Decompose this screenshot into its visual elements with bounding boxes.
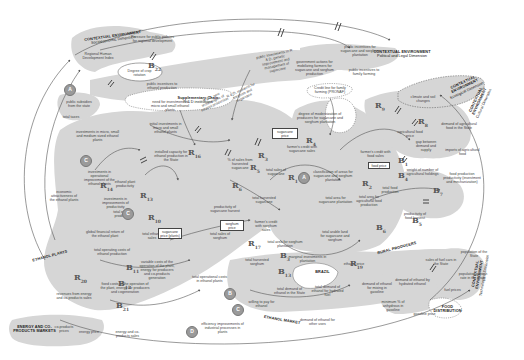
loop-r9: R9 xyxy=(375,100,385,112)
node-need-investment-plants: need for investment in micro and small e… xyxy=(150,100,190,112)
node-total-harvested-sorghum: total harvested sorghum xyxy=(238,258,276,266)
node-global-financial-return: global financial return of the ethanol p… xyxy=(85,230,125,238)
node-public-incentives-plantation: public incentives for sugarcane and sorg… xyxy=(340,45,380,57)
loop-r5: R5 xyxy=(250,162,260,174)
delay-mark xyxy=(255,138,261,146)
node-variable-costs: variable costs of the operation of the p… xyxy=(138,260,176,280)
node-imports-food: imports of agricultural food xyxy=(445,148,480,156)
node-demand-hydrated-ethanol: demand of ethanol by hydrated ethanol xyxy=(395,278,430,286)
node-agricultural-food-price: agricultural food price xyxy=(395,130,425,138)
loop-b21: B21 xyxy=(116,300,129,312)
node-public-incentives-family: public incentives to family farming xyxy=(345,68,383,76)
node-regional-hdi: Regional Human Development Index xyxy=(78,52,118,60)
loop-r6: R6 xyxy=(232,180,242,192)
node-farmer-credit-sugarcane: farmer's credit with sugarcane sales xyxy=(282,145,322,153)
node-coproducts-prices: co-products prices xyxy=(50,325,78,333)
loop-b13: B13 xyxy=(278,266,291,278)
node-total-operating-costs: total operating costs of ethanol product… xyxy=(92,248,132,256)
node-total-sales-sorghum: total sales of sorghum xyxy=(205,232,235,240)
node-ethanol-plant-productivity: ethanol plant productivity xyxy=(110,180,140,188)
context-political: CONTEXTUAL ENVIRONMENTPolitical and Lega… xyxy=(372,50,432,59)
delay-mark xyxy=(225,149,231,156)
node-population: population of the State xyxy=(460,250,488,258)
arrow-r10 xyxy=(145,166,178,180)
node-demand-other-uses: demand of ethanol for other uses xyxy=(300,318,335,326)
loop-b6: B6 xyxy=(376,222,386,234)
delay-mark xyxy=(335,22,341,31)
circle-marker-a: A xyxy=(298,172,310,184)
loop-r1: R1 xyxy=(288,172,298,184)
node-installed-capacity: installed capacity for ethanol productio… xyxy=(152,150,190,162)
node-energy-coproducts-sales: energy and co-products sales xyxy=(110,330,145,338)
arrow-r14 xyxy=(95,148,140,170)
loop-r16: R16 xyxy=(188,147,201,159)
loop-r14: R14 xyxy=(100,180,113,192)
loop-r19: R19 xyxy=(350,258,363,270)
node-marginal-investments: marginal investments in plantation xyxy=(285,255,330,263)
arrow-left-inner-arc xyxy=(45,70,80,240)
node-efficiency-improvements: efficiency improvements of industrial pr… xyxy=(200,322,245,334)
delay-mark xyxy=(423,200,429,203)
loop-b3: B3 xyxy=(280,250,290,262)
delay-mark xyxy=(395,106,401,114)
node-sorghum-price: sorghum price xyxy=(220,220,244,231)
loop-r10: R10 xyxy=(148,212,161,224)
node-demand-ag-food: demand of agricultural food in the State xyxy=(440,122,478,130)
node-productivity-sugarcane: productivity of sugarcane harvest xyxy=(210,205,240,213)
node-public-incentives-ethanol: public incentives to ethanol production xyxy=(142,82,182,90)
loop-b1: B1 xyxy=(398,155,408,167)
node-food-price: food price xyxy=(368,162,390,169)
circle-marker-c: C xyxy=(80,155,92,167)
loop-r20: R20 xyxy=(74,272,87,284)
node-minimum-anhydrous: minimum % of anhydrous in gasoline xyxy=(378,300,408,312)
loop-r8: R8 xyxy=(418,116,428,128)
node-initial-investments: initial investments in micro and small e… xyxy=(148,122,183,134)
node-total-food-production: total food production xyxy=(376,186,404,194)
loop-r13: R13 xyxy=(140,190,153,202)
node-climate-soil: climate and soil changes xyxy=(408,95,438,103)
zone-brazil: BRAZIL xyxy=(310,270,335,274)
loop-r17: R17 xyxy=(248,238,261,250)
node-population-growth: population growth rate in the State xyxy=(458,272,488,280)
node-total-sales-sugarcane: total sales of sugarcane xyxy=(262,168,290,176)
loop-r3: R3 xyxy=(258,150,268,162)
loop-b11: B11 xyxy=(126,262,139,274)
node-demand-hydrated: total demand of ethanol for hydrated fue… xyxy=(310,285,345,297)
node-pressure-public-policies: Pressure for public policies for regiona… xyxy=(130,35,175,43)
loop-b22: B22 xyxy=(148,60,161,72)
node-gov-actions-farmers: government actions for mobilizing farmer… xyxy=(292,60,337,76)
node-public-subsidies: public subsidies from the state xyxy=(64,100,94,108)
node-investments-micro-small: investments in micro, small and medium s… xyxy=(75,130,120,142)
delay-mark xyxy=(278,28,284,37)
node-willing-pay: willing to pay for ethanol xyxy=(244,300,279,308)
circle-marker-d: D xyxy=(186,326,198,338)
loop-b5: B5 xyxy=(412,215,422,227)
node-fuel-prices: fuel prices xyxy=(440,288,465,292)
node-gap-demand-supply: gap between demand and supply xyxy=(412,140,440,152)
node-food-productivity-investment: food production productivity (investment… xyxy=(442,172,482,184)
node-total-taxes: total taxes xyxy=(60,115,82,119)
node-revenues-energy: revenues from energy and co-products sal… xyxy=(55,292,93,300)
node-degree-modernization: degree of modernization of producers for… xyxy=(295,112,345,124)
delay-mark xyxy=(150,52,156,60)
node-ag-holdings: weight of number of agricultural holding… xyxy=(405,168,440,176)
node-sugarcane-price-plants: sugarcane price (plants) xyxy=(158,228,182,239)
circle-marker-a: A xyxy=(64,84,76,96)
loop-r4: R4 xyxy=(306,135,316,147)
loop-r2: R2 xyxy=(362,178,372,190)
node-total-arable-land: total arable land for sugarcane and sorg… xyxy=(320,230,350,242)
node-total-harvested-sugarcane: total harvested sugarcane xyxy=(248,196,280,204)
node-total-operational-costs: total operational costs in ethanol plant… xyxy=(192,275,227,283)
circle-marker-c: C xyxy=(122,208,134,220)
circle-marker-c: C xyxy=(232,304,244,316)
node-sales-fuel-cars: sales of fuel cars in the State xyxy=(425,258,457,266)
delay-mark xyxy=(140,157,147,163)
delay-mark xyxy=(195,126,201,133)
node-gasoline-price: gasoline price xyxy=(412,312,437,316)
node-farmer-credit-food: farmer's credit with food sales xyxy=(358,150,393,158)
loop-b7: B7 xyxy=(433,185,443,197)
delay-mark xyxy=(108,80,114,87)
node-demand-mixing: demand of ethanol for mixing in gasoline xyxy=(362,282,392,294)
node-total-area-sugarcane: total area for sugarcane plantation xyxy=(318,196,353,204)
node-energy-price: energy price xyxy=(78,330,100,334)
